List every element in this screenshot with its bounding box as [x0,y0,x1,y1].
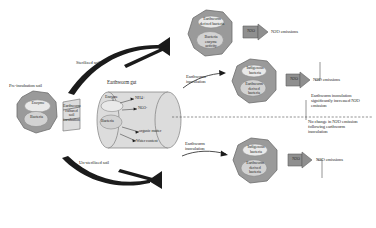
pathway2-conclusion: Earthworm inoculation significantly incr… [311,93,375,108]
gut-bacteria-label: Bacteria [101,119,125,124]
pathway3-emission-label: N2O emissions [316,157,362,162]
pathway2-emission-label: N2O emissions [313,77,359,82]
pathway1-inner-bottom-label: Bacteria enzyme activity [199,35,223,49]
sterilized-soil-label: Sterilized soil [76,60,120,65]
pathway3-emission-box-label: N2O [289,157,303,162]
arrow-earthworm-inoculation-lower [182,151,228,157]
soil-enzyme-label: Enzyme [26,101,50,106]
pathway2-emission-box-label: N2O [287,77,301,82]
connector-lower [317,160,322,178]
pathway1-inner-top-label: Earthworm derived bacteria [199,17,225,26]
gut-annotation-nh4: NH4+ [135,96,155,101]
arrow-sterilized-soil [68,37,170,95]
pathway1-emission-label: N2O emissions [271,29,317,34]
earthworm-gut-title: Earthworm gut [107,80,167,86]
diagram-canvas [0,0,376,228]
earthworm-inoculation-upper-label: Earthworm inoculation [186,74,226,84]
unsterilized-soil-label: Un-sterilized soil [79,160,129,165]
pathway1-emission-box-label: N2O [244,29,258,34]
pre-incubation-soil-blob [17,91,57,133]
earthworm-cultured-soil-label: Earthworm cultured soil incubation [63,104,80,122]
earthworm-inoculation-lower-label: Earthworm inoculation [185,141,225,151]
soil-bacteria-label: Bacteria [24,115,49,120]
pre-incubation-soil-label: Pre-incubation soil [9,83,65,88]
gut-annotation-water-content: Water content [136,139,170,144]
gut-annotation-organic-matter: organic matter [139,129,173,134]
pathway2-inner-bottom-label: Earthworm derived bacteria [242,82,266,96]
gut-enzyme-label: Enzyme [105,95,127,100]
pathway2-inner-top-label: Indigenous bacteria [243,66,267,75]
pathway3-inner-top-label: Indigenous bacteria [244,145,268,154]
gut-annotation-no3: NO3- [138,106,158,111]
pathway3-inner-bottom-label: Earthworm derived bacteria [243,161,267,175]
pathway3-conclusion: No change in N2O emission following eart… [308,119,374,134]
